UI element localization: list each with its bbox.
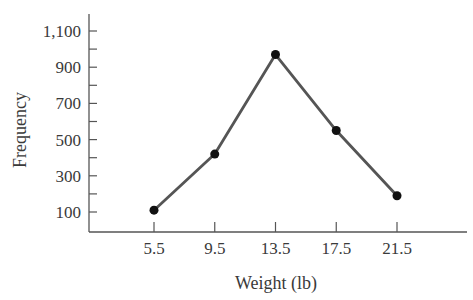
y-axis: 1003005007009001,100: [43, 14, 97, 232]
frequency-polygon-chart: 1003005007009001,100 5.59.513.517.521.5 …: [0, 0, 473, 300]
y-axis-title: Frequency: [10, 92, 30, 168]
y-tick-label: 100: [56, 203, 82, 222]
x-axis: 5.59.513.517.521.5: [89, 222, 467, 258]
x-tick-label: 13.5: [261, 239, 291, 258]
y-tick-label: 900: [56, 58, 82, 77]
y-tick-label: 700: [56, 94, 82, 113]
y-tick-label: 300: [56, 167, 82, 186]
series-line: [154, 55, 397, 211]
x-tick-label: 5.5: [143, 239, 164, 258]
y-tick-label: 500: [56, 131, 82, 150]
x-tick-label: 9.5: [204, 239, 225, 258]
data-series: [150, 50, 402, 215]
x-axis-title: Weight (lb): [235, 273, 317, 294]
y-tick-label: 1,100: [43, 22, 81, 41]
x-tick-label: 21.5: [382, 239, 412, 258]
data-point-marker: [332, 126, 341, 135]
data-point-marker: [393, 191, 402, 200]
data-point-marker: [150, 206, 159, 215]
data-point-marker: [271, 50, 280, 59]
data-point-marker: [210, 150, 219, 159]
x-tick-label: 17.5: [321, 239, 351, 258]
